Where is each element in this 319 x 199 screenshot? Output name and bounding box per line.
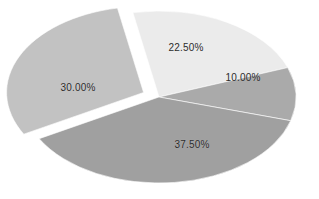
slice-label-2: 37.50% (174, 139, 209, 150)
pie-slice-group (7, 8, 296, 183)
slice-label-1: 10.00% (225, 72, 260, 83)
pie-chart: 22.50% 10.00% 37.50% 30.00% (0, 0, 319, 199)
pie-chart-canvas (0, 0, 319, 199)
slice-label-3: 30.00% (60, 82, 95, 93)
slice-label-0: 22.50% (168, 42, 203, 53)
